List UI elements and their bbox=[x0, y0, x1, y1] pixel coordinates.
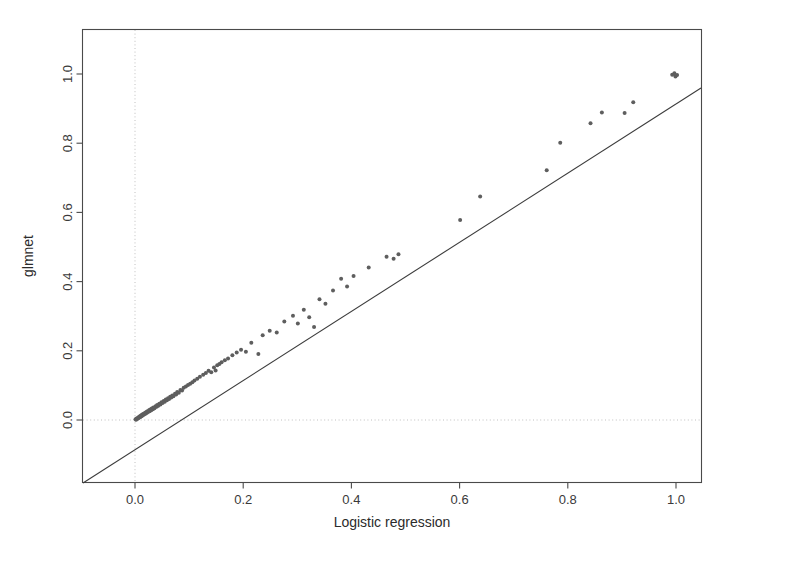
data-point bbox=[458, 218, 462, 222]
data-point bbox=[244, 350, 248, 354]
data-point bbox=[392, 257, 396, 261]
y-tick-label: 0.6 bbox=[60, 203, 75, 221]
data-point bbox=[275, 330, 279, 334]
data-point bbox=[478, 194, 482, 198]
x-axis-title: Logistic regression bbox=[334, 514, 451, 530]
data-point bbox=[312, 325, 316, 329]
data-point bbox=[631, 100, 635, 104]
data-point bbox=[302, 308, 306, 312]
data-point bbox=[323, 302, 327, 306]
y-tick-label: 0.2 bbox=[60, 342, 75, 360]
y-axis-ticks: 0.00.20.40.60.81.0 bbox=[60, 65, 83, 429]
y-tick-label: 1.0 bbox=[60, 65, 75, 83]
data-point bbox=[558, 141, 562, 145]
data-point bbox=[214, 369, 218, 373]
zero-grid-lines bbox=[83, 30, 701, 482]
y-tick-label: 0.8 bbox=[60, 134, 75, 152]
data-point bbox=[396, 252, 400, 256]
x-tick-label: 0.6 bbox=[451, 492, 469, 507]
data-point bbox=[256, 352, 260, 356]
data-point bbox=[589, 121, 593, 125]
x-tick-label: 0.0 bbox=[126, 492, 144, 507]
plot-frame bbox=[83, 30, 702, 483]
data-point bbox=[339, 277, 343, 281]
plot-canvas: 0.00.20.40.60.81.0 0.00.20.40.60.81.0 Lo… bbox=[0, 0, 792, 561]
data-point bbox=[249, 341, 253, 345]
data-point bbox=[268, 329, 272, 333]
data-point bbox=[261, 333, 265, 337]
scatter-plot-figure: 0.00.20.40.60.81.0 0.00.20.40.60.81.0 Lo… bbox=[0, 0, 792, 561]
y-axis-title: glmnet bbox=[20, 235, 36, 277]
data-point bbox=[291, 314, 295, 318]
x-tick-label: 0.4 bbox=[342, 492, 360, 507]
data-point bbox=[235, 351, 239, 355]
data-point bbox=[331, 289, 335, 293]
x-tick-label: 0.2 bbox=[234, 492, 252, 507]
data-point bbox=[600, 110, 604, 114]
data-point bbox=[545, 168, 549, 172]
data-point bbox=[296, 321, 300, 325]
data-point bbox=[675, 73, 679, 77]
y-tick-label: 0.4 bbox=[60, 273, 75, 291]
data-point bbox=[345, 284, 349, 288]
x-tick-label: 0.8 bbox=[559, 492, 577, 507]
data-point bbox=[367, 265, 371, 269]
data-point bbox=[230, 353, 234, 357]
data-point bbox=[307, 315, 311, 319]
data-point bbox=[385, 255, 389, 259]
data-point bbox=[226, 356, 230, 360]
data-point bbox=[317, 297, 321, 301]
x-axis-ticks: 0.00.20.40.60.81.0 bbox=[126, 483, 685, 507]
x-tick-label: 1.0 bbox=[667, 492, 685, 507]
data-point bbox=[239, 348, 243, 352]
y-tick-label: 0.0 bbox=[60, 411, 75, 429]
data-point bbox=[282, 319, 286, 323]
data-point bbox=[352, 274, 356, 278]
scatter-points-group bbox=[134, 71, 680, 421]
identity-reference-line bbox=[83, 88, 701, 483]
data-point bbox=[209, 370, 213, 374]
data-point bbox=[623, 111, 627, 115]
